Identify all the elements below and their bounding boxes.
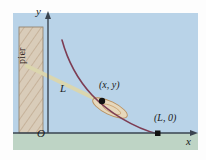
tractrix-figure: y x O L (x, y) (L, 0) pier bbox=[0, 0, 206, 160]
origin-label: O bbox=[37, 128, 45, 139]
pier-block bbox=[19, 27, 43, 133]
y-axis-label: y bbox=[36, 6, 41, 17]
anchor-point-marker bbox=[155, 131, 161, 137]
boat-point-label: (x, y) bbox=[99, 80, 120, 90]
pier-label: pier bbox=[17, 47, 27, 64]
rope-length-label: L bbox=[60, 83, 66, 94]
x-axis-label: x bbox=[186, 136, 191, 147]
anchor-point-label: (L, 0) bbox=[154, 113, 176, 123]
boat-point-marker bbox=[99, 98, 105, 104]
